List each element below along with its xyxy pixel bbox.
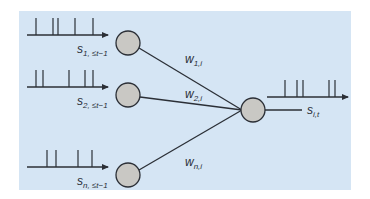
input-neuron-2 [116,83,140,107]
input-neuron-1 [116,31,140,55]
input-neuron-n [116,163,140,187]
output-neuron [241,98,265,122]
spiking-network-diagram: s1, ≤t−1 s2, ≤t−1 sn, ≤t−1 w1,i w2,i wn,… [0,0,370,199]
